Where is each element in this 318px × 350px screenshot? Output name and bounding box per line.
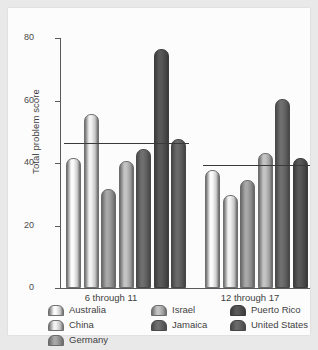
- chart-legend: AustraliaChinaGermany IsraelJamaica Puer…: [16, 303, 318, 350]
- legend-swatch-germany-icon: [48, 335, 64, 346]
- x-axis-line: [60, 288, 310, 289]
- y-tick-label: 60: [4, 96, 34, 105]
- chart-card: Total problem score 020406080 6 through …: [8, 8, 310, 335]
- legend-swatch-jamaica-icon: [151, 320, 167, 331]
- bar-israel-12-through-17: [258, 153, 273, 288]
- legend-column-2: IsraelJamaica: [151, 303, 207, 333]
- y-tick-label: 80: [4, 33, 34, 42]
- y-tick-label: 20: [4, 221, 34, 230]
- bar-germany-6-through-11: [101, 189, 116, 288]
- legend-item-china: China: [48, 318, 108, 332]
- reference-line-6-through-11: [64, 143, 189, 144]
- legend-swatch-israel-icon: [151, 305, 167, 316]
- legend-item-germany: Germany: [48, 333, 108, 347]
- legend-label: Puerto Rico: [251, 305, 301, 315]
- y-axis-title: Total problem score: [30, 57, 41, 207]
- y-tick-label: 0: [4, 283, 34, 292]
- legend-label: United States: [251, 320, 308, 330]
- y-tick-mark: [55, 288, 60, 289]
- legend-label: Germany: [69, 335, 108, 345]
- x-axis-label-group-1: 12 through 17: [195, 292, 305, 303]
- legend-item-australia: Australia: [48, 303, 108, 317]
- plot-area: Total problem score 020406080 6 through …: [16, 16, 318, 301]
- legend-label: Israel: [172, 305, 195, 315]
- y-tick-mark: [55, 38, 60, 39]
- bar-china-12-through-17: [223, 195, 238, 288]
- legend-label: Jamaica: [172, 320, 207, 330]
- y-axis-line: [60, 38, 61, 289]
- bar-puerto-rico-6-through-11: [154, 49, 169, 289]
- legend-label: China: [69, 320, 94, 330]
- legend-swatch-china-icon: [48, 320, 64, 331]
- legend-column-1: AustraliaChinaGermany: [48, 303, 108, 348]
- bar-israel-6-through-11: [119, 161, 134, 288]
- legend-swatch-united-states-icon: [230, 320, 246, 331]
- x-axis-label-group-0: 6 through 11: [56, 292, 166, 303]
- legend-label: Australia: [69, 305, 106, 315]
- y-tick-mark: [55, 226, 60, 227]
- bar-germany-12-through-17: [240, 180, 255, 288]
- legend-item-jamaica: Jamaica: [151, 318, 207, 332]
- bar-china-6-through-11: [84, 114, 99, 288]
- bar-jamaica-6-through-11: [136, 149, 151, 289]
- bar-puerto-rico-12-through-17: [293, 158, 308, 288]
- legend-swatch-puerto-rico-icon: [230, 305, 246, 316]
- bar-australia-6-through-11: [66, 158, 81, 288]
- legend-item-israel: Israel: [151, 303, 207, 317]
- reference-line-12-through-17: [203, 165, 310, 166]
- legend-item-puerto-rico: Puerto Rico: [230, 303, 308, 317]
- legend-swatch-australia-icon: [48, 305, 64, 316]
- y-tick-label: 40: [4, 158, 34, 167]
- y-tick-mark: [55, 163, 60, 164]
- bar-group-12-through-17: [205, 38, 305, 288]
- bar-australia-12-through-17: [205, 170, 220, 288]
- bar-united-states-6-through-11: [171, 139, 186, 288]
- bar-group-6-through-11: [66, 38, 166, 288]
- y-tick-mark: [55, 101, 60, 102]
- legend-item-united-states: United States: [230, 318, 308, 332]
- legend-column-3: Puerto RicoUnited States: [230, 303, 308, 333]
- bar-jamaica-12-through-17: [275, 99, 290, 289]
